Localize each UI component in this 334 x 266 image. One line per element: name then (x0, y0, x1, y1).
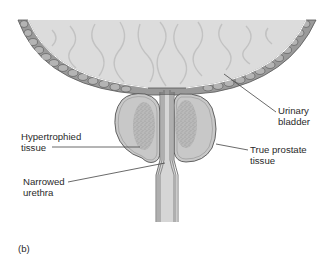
true-prostate-leader (216, 144, 248, 150)
narrowed-urethra-leader (68, 163, 165, 182)
panel-label: (b) (18, 243, 30, 254)
hypertrophied-tissue-left (133, 102, 155, 150)
urinary-bladder-label-line2: bladder (278, 116, 310, 127)
prostate-right-lobe (174, 94, 216, 162)
hypertrophied-tissue-label-line1: Hypertrophied (21, 131, 81, 142)
prostate-diagram: Urinary bladder Hypertrophied tissue Tru… (0, 0, 334, 266)
prostate-left-lobe (115, 94, 160, 163)
narrowed-urethra-label-line1: Narrowed (23, 176, 65, 187)
urinary-bladder (28, 20, 306, 88)
urinary-bladder-label-line1: Urinary (278, 105, 310, 116)
urinary-bladder-label: Urinary bladder (278, 105, 310, 127)
hypertrophied-tissue-label-line2: tissue (21, 142, 81, 153)
narrowed-urethra-label-line2: urethra (23, 187, 65, 198)
true-prostate-tissue-label: True prostate tissue (250, 144, 307, 166)
true-prostate-tissue-label-line2: tissue (250, 155, 307, 166)
true-prostate-tissue-label-line1: True prostate (250, 144, 307, 155)
hypertrophied-tissue-right (175, 100, 197, 148)
hypertrophied-tissue-label: Hypertrophied tissue (21, 131, 81, 153)
narrowed-urethra-label: Narrowed urethra (23, 176, 65, 198)
